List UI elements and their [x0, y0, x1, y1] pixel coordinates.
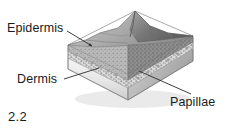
label-epidermis: Epidermis	[7, 22, 63, 35]
figure-number: 2.2	[8, 110, 27, 124]
figure-container: Epidermis Dermis Papillae 2.2	[0, 0, 232, 132]
label-dermis: Dermis	[17, 73, 57, 86]
epidermis-peak-shadow	[130, 11, 193, 42]
skin-block-illustration	[0, 0, 232, 132]
label-papillae: Papillae	[170, 96, 215, 109]
